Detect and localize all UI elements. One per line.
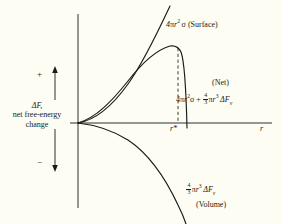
net-plus-operator: +	[196, 95, 201, 104]
surface-label-paren: (Surface)	[188, 20, 218, 29]
net-free-energy-curve	[78, 46, 187, 128]
y-axis-negative-sign: −	[37, 157, 42, 168]
volume-fraction: 43	[186, 183, 191, 196]
y-axis-positive-sign: +	[37, 69, 42, 80]
x-axis-label: r	[260, 124, 263, 133]
critical-radius-label: r*	[170, 124, 177, 133]
surface-label-sigma: σ	[182, 20, 186, 29]
volume-term-curve	[78, 123, 186, 224]
net-term2-exponent: 3	[216, 93, 219, 99]
net-term2-subscript: v	[230, 100, 232, 106]
net-term1-sigma: σ	[190, 95, 194, 104]
net-term2-delta-f: ΔF	[220, 95, 230, 104]
volume-subscript: v	[213, 190, 215, 196]
free-energy-vs-radius-figure: 4πr2 σ (Surface) (Net) 4πr2σ + 43πr3 ΔFv…	[0, 0, 282, 224]
surface-term-curve	[78, 6, 170, 123]
y-axis-symbol: ΔF,	[32, 101, 43, 110]
surface-label-exponent: 2	[177, 18, 180, 24]
volume-curve-equation-label: 43πr3 ΔFv	[186, 183, 215, 196]
volume-denominator: 3	[186, 189, 191, 196]
volume-exponent: 3	[199, 183, 202, 189]
surface-curve-label: 4πr2 σ (Surface)	[166, 18, 218, 29]
y-axis-label: ΔF, net free-energy change	[0, 101, 74, 129]
volume-curve-title-label: (Volume)	[196, 200, 226, 209]
y-axis-text-line2: change	[26, 120, 49, 129]
net-curve-equation-label: 4πr2σ + 43πr3 ΔFv	[176, 93, 232, 106]
y-axis-text-line1: net free-energy	[13, 110, 62, 119]
net-curve-title-label: (Net)	[212, 78, 229, 87]
volume-delta-f: ΔF	[203, 185, 213, 194]
